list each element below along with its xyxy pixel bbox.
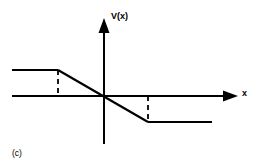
y-axis-label: V(x) (111, 11, 128, 21)
potential-figure-panel-c: V(x) x (c) (0, 0, 259, 168)
x-axis-arrowhead-icon (223, 91, 238, 102)
y-axis-arrowhead-icon (99, 18, 110, 33)
potential-plot-svg (0, 0, 259, 168)
x-axis-label: x (242, 88, 247, 98)
panel-caption: (c) (12, 148, 22, 158)
